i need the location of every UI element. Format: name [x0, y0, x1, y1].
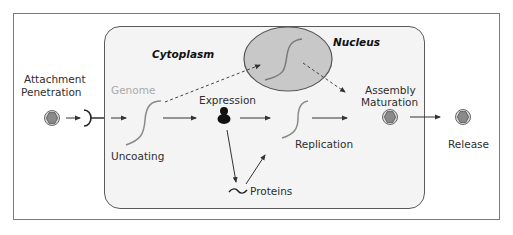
replication-label: Replication	[295, 138, 353, 150]
release-label: Release	[448, 138, 489, 150]
receptor-icon	[84, 110, 104, 126]
ribosome-icon	[218, 107, 231, 124]
incoming-virion-icon	[45, 111, 60, 126]
genome-icon	[126, 101, 161, 145]
assembled-virion-icon	[383, 110, 398, 125]
diagram-graphics	[0, 0, 513, 235]
released-virion-icon	[456, 110, 471, 125]
expression-label: Expression	[199, 94, 256, 106]
maturation-label: Maturation	[361, 96, 418, 108]
nucleus	[244, 27, 332, 91]
uncoating-label: Uncoating	[111, 150, 164, 162]
cytoplasm-label: Cytoplasm	[152, 48, 214, 60]
protein-icon	[229, 189, 247, 193]
proteins-label: Proteins	[250, 185, 292, 197]
nucleus-label: Nucleus	[333, 36, 380, 48]
attachment-label: Attachment	[24, 73, 86, 85]
replicated-genome-icon	[282, 101, 308, 138]
assembly-label: Assembly	[365, 84, 416, 96]
genome-label: Genome	[111, 84, 155, 96]
penetration-label: Penetration	[21, 86, 82, 98]
